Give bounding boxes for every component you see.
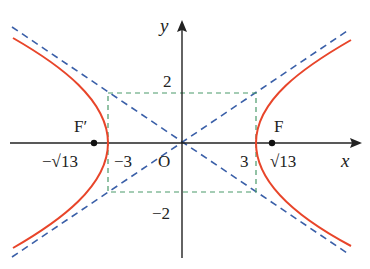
- origin-label: O: [158, 152, 170, 171]
- focus-right-point: [269, 140, 275, 146]
- focus-right-label: F: [274, 117, 283, 136]
- hyperbola-diagram: y x 2 −2 −3 3 O F′ F −√13 √13: [0, 0, 370, 269]
- focus-left-label: F′: [74, 117, 87, 136]
- x-tick-neg3: −3: [114, 152, 132, 171]
- y-tick-2: 2: [163, 72, 172, 91]
- focus-left-point: [91, 140, 97, 146]
- asymptote-1: [12, 27, 350, 255]
- focus-right-value: √13: [270, 152, 296, 171]
- x-tick-3: 3: [240, 152, 249, 171]
- focus-left-value: −√13: [42, 152, 78, 171]
- y-tick-neg2: −2: [152, 204, 170, 223]
- x-axis-label: x: [340, 150, 350, 171]
- y-axis-label: y: [158, 15, 169, 36]
